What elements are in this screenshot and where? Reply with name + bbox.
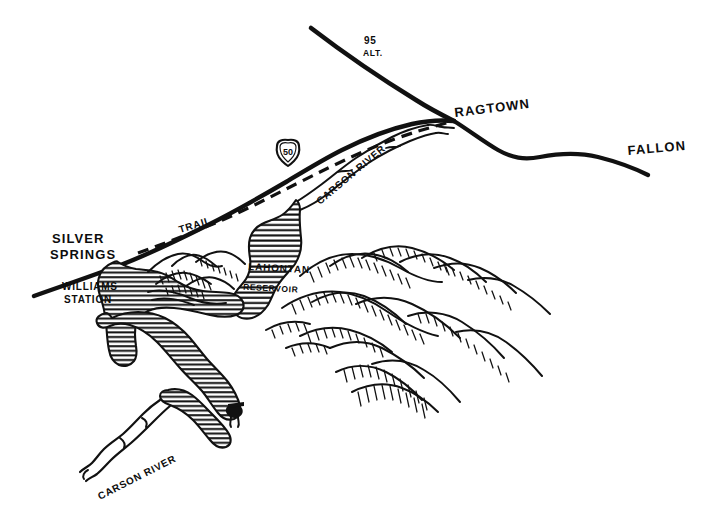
label-carson-river-lower-text: CARSON RIVER bbox=[96, 453, 178, 502]
label-silver-springs-line2: SPRINGS bbox=[50, 247, 116, 262]
label-ragtown: RAGTOWN bbox=[454, 96, 531, 120]
shield-route-number: 50 bbox=[283, 147, 293, 157]
label-silver-springs: SILVER SPRINGS bbox=[50, 231, 116, 262]
label-carson-river-lower: CARSON RIVER bbox=[96, 453, 178, 502]
highway-95-alt-label: 95 ALT. bbox=[363, 35, 383, 58]
map-canvas: 50 bbox=[0, 0, 715, 531]
highway-to-fallon-road bbox=[454, 121, 648, 175]
label-williams-station-line1: WILLIAMS bbox=[62, 281, 118, 292]
highway-95-alt-number: 95 bbox=[364, 35, 377, 46]
label-fallon: FALLON bbox=[627, 138, 687, 158]
label-fallon-text: FALLON bbox=[627, 138, 687, 158]
lahontan-dam bbox=[226, 402, 244, 427]
label-ragtown-text: RAGTOWN bbox=[454, 96, 531, 120]
label-silver-springs-line1: SILVER bbox=[52, 231, 105, 246]
label-williams-station-line2: STATION bbox=[64, 294, 112, 305]
map-drawing: 50 bbox=[0, 0, 715, 531]
label-carson-river-upper: CARSON RIVER bbox=[314, 143, 387, 207]
us-highway-50-shield: 50 bbox=[277, 140, 300, 166]
highway-95-alt-road bbox=[311, 28, 454, 121]
label-carson-river-upper-text: CARSON RIVER bbox=[314, 143, 387, 207]
highway-95-alt-suffix: ALT. bbox=[363, 48, 383, 58]
